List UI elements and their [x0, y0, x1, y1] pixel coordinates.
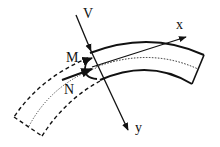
label-moment-m: M [66, 50, 79, 65]
dashed-beam-outline [14, 58, 100, 136]
label-y-axis: y [135, 120, 142, 135]
dashed-centerline-left [28, 68, 96, 128]
solid-beam-segment [90, 42, 204, 84]
y-axis-arrow [91, 51, 128, 130]
beam-diagram: V M N x y [0, 0, 220, 147]
beam-centerline [96, 57, 198, 69]
label-normal-n: N [64, 82, 74, 97]
label-x-axis: x [176, 17, 183, 32]
label-shear-v: V [83, 6, 93, 21]
